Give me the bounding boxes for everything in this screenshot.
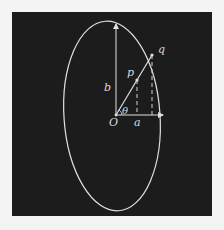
label-theta: θ (122, 105, 128, 116)
label-q: q (158, 43, 165, 56)
label-p: p (127, 66, 134, 79)
point-q (150, 53, 153, 56)
label-b: b (104, 81, 111, 94)
label-origin: O (109, 116, 118, 129)
point-p (135, 78, 138, 81)
label-a: a (134, 116, 141, 129)
ellipse-diagram: O b a p q θ (0, 0, 224, 230)
